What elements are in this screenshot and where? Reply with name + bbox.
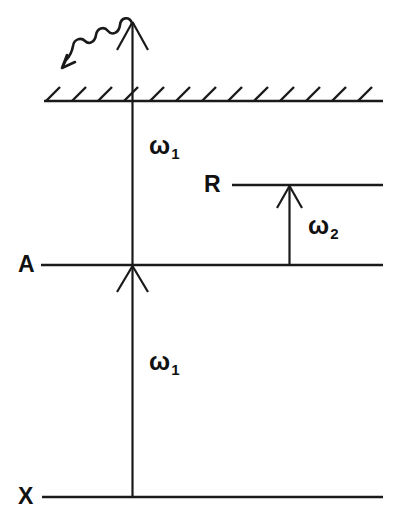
omega-glyph: ω (308, 211, 329, 239)
energy-level-diagram: X A R ω1 ω1 ω2 (0, 0, 400, 532)
transition-arrow-omega1-upper (117, 22, 148, 266)
level-label-A: A (18, 253, 35, 276)
transition-arrow-omega1-lower (117, 266, 148, 497)
omega-glyph: ω (149, 131, 170, 159)
omega-subscript: 2 (330, 225, 338, 242)
omega-subscript: 1 (171, 145, 179, 162)
transition-label-omega1-lower: ω1 (149, 349, 178, 374)
transition-arrow-omega2 (277, 186, 302, 265)
level-label-X: X (18, 485, 34, 508)
continuum-hatch-marks (46, 87, 372, 101)
omega-subscript: 1 (171, 361, 179, 378)
omega-glyph: ω (149, 347, 170, 375)
level-label-R: R (204, 173, 221, 196)
diagram-canvas (0, 0, 400, 532)
transition-label-omega1-upper: ω1 (149, 133, 178, 158)
transition-label-omega2: ω2 (308, 213, 337, 238)
